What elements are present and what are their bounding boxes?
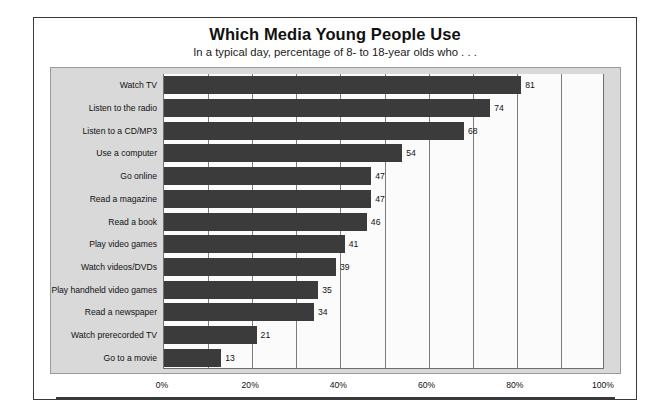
chart-figure: Which Media Young People Use In a typica…: [33, 17, 637, 400]
bar: [164, 144, 402, 162]
bar-value-label: 54: [406, 148, 416, 158]
bar: [164, 213, 367, 231]
bar-value-label: 13: [225, 353, 235, 363]
chart-title: Which Media Young People Use: [34, 24, 636, 44]
category-label: Play video games: [0, 239, 157, 249]
category-label-column: Watch TVListen to the radioListen to a C…: [51, 68, 161, 373]
bar: [164, 281, 318, 299]
bar-row: 13: [164, 349, 605, 367]
x-tick-label: 0%: [156, 380, 168, 390]
bar: [164, 235, 345, 253]
bar-row: 46: [164, 213, 605, 231]
bar-row: 21: [164, 326, 605, 344]
bar-row: 47: [164, 167, 605, 185]
category-label: Watch TV: [0, 80, 157, 90]
category-label: Watch prerecorded TV: [0, 330, 157, 340]
bar-row: 54: [164, 144, 605, 162]
bar-value-label: 74: [494, 103, 504, 113]
bar-value-label: 39: [340, 262, 350, 272]
bar-value-label: 35: [322, 285, 332, 295]
x-tick-label: 40%: [330, 380, 347, 390]
chart-panel: Watch TVListen to the radioListen to a C…: [50, 67, 621, 374]
bar: [164, 99, 490, 117]
title-block: Which Media Young People Use In a typica…: [34, 24, 636, 60]
bar-row: 39: [164, 258, 605, 276]
bar-value-label: 81: [525, 80, 535, 90]
x-tick-label: 60%: [418, 380, 435, 390]
category-label: Listen to a CD/MP3: [0, 126, 157, 136]
bar: [164, 258, 336, 276]
bar-row: 81: [164, 76, 605, 94]
x-axis: 0%20%40%60%80%100%: [50, 374, 621, 398]
bar-value-label: 47: [375, 171, 385, 181]
x-tick-label: 80%: [506, 380, 523, 390]
bar-row: 34: [164, 303, 605, 321]
bar: [164, 122, 464, 140]
category-label: Play handheld video games: [0, 285, 157, 295]
bar: [164, 349, 221, 367]
category-label: Read a magazine: [0, 194, 157, 204]
category-label: Go to a movie: [0, 353, 157, 363]
bar-value-label: 47: [375, 194, 385, 204]
bar-row: 47: [164, 190, 605, 208]
plot-area: 81746854474746413935342113: [163, 74, 604, 369]
bar-value-label: 46: [371, 217, 381, 227]
bar: [164, 167, 371, 185]
category-label: Read a book: [0, 217, 157, 227]
bar: [164, 190, 371, 208]
category-label: Listen to the radio: [0, 103, 157, 113]
category-label: Watch videos/DVDs: [0, 262, 157, 272]
bar-value-label: 34: [318, 307, 328, 317]
axis-rule: [56, 397, 615, 399]
chart-subtitle: In a typical day, percentage of 8- to 18…: [34, 45, 636, 60]
bar-row: 74: [164, 99, 605, 117]
bar-row: 41: [164, 235, 605, 253]
category-label: Go online: [0, 171, 157, 181]
bar-value-label: 21: [261, 330, 271, 340]
category-label: Read a newspaper: [0, 307, 157, 317]
bar-row: 35: [164, 281, 605, 299]
x-tick-label: 100%: [592, 380, 614, 390]
x-tick-label: 20%: [242, 380, 259, 390]
category-label: Use a computer: [0, 148, 157, 158]
bar: [164, 303, 314, 321]
bar-value-label: 68: [468, 126, 478, 136]
bar-value-label: 41: [349, 239, 359, 249]
bar: [164, 326, 257, 344]
bar-row: 68: [164, 122, 605, 140]
bar: [164, 76, 521, 94]
